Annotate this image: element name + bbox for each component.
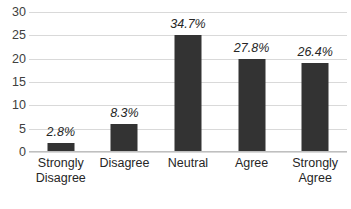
category-label: Strongly Disagree: [29, 156, 93, 186]
bar-slot: 26.4%: [283, 12, 347, 152]
bar-value-label: 2.8%: [47, 126, 76, 139]
category-label: Disagree: [93, 156, 157, 171]
category-label: Neutral: [156, 156, 220, 171]
category-label: Strongly Agree: [283, 156, 347, 186]
bar-value-label: 26.4%: [297, 46, 332, 59]
bar-value-label: 34.7%: [170, 18, 205, 31]
bar-value-label: 8.3%: [110, 107, 139, 120]
plot-area: 2.8%8.3%34.7%27.8%26.4%: [29, 12, 347, 152]
y-tick-label: 5: [0, 123, 26, 135]
y-axis: 051015202530: [0, 0, 26, 209]
category-label: Agree: [220, 156, 284, 171]
bar-slot: 2.8%: [29, 12, 93, 152]
bar-slot: 8.3%: [93, 12, 157, 152]
x-axis-category-labels: Strongly DisagreeDisagreeNeutralAgreeStr…: [29, 156, 347, 206]
y-tick-label: 30: [0, 6, 26, 18]
bar-slot: 27.8%: [220, 12, 284, 152]
y-tick-label: 0: [0, 146, 26, 158]
y-tick-label: 10: [0, 99, 26, 111]
bar: [111, 124, 138, 152]
y-tick-label: 20: [0, 53, 26, 65]
axis-baseline: [29, 151, 347, 152]
y-tick-label: 25: [0, 29, 26, 41]
gridline: [29, 152, 347, 153]
bar: [302, 63, 329, 152]
bar-slot: 34.7%: [156, 12, 220, 152]
y-tick-label: 15: [0, 76, 26, 88]
bar: [174, 35, 201, 152]
bar: [238, 59, 265, 152]
bar-series: 2.8%8.3%34.7%27.8%26.4%: [29, 12, 347, 152]
bar-value-label: 27.8%: [234, 42, 269, 55]
bar-chart: 051015202530 2.8%8.3%34.7%27.8%26.4% Str…: [0, 0, 351, 209]
